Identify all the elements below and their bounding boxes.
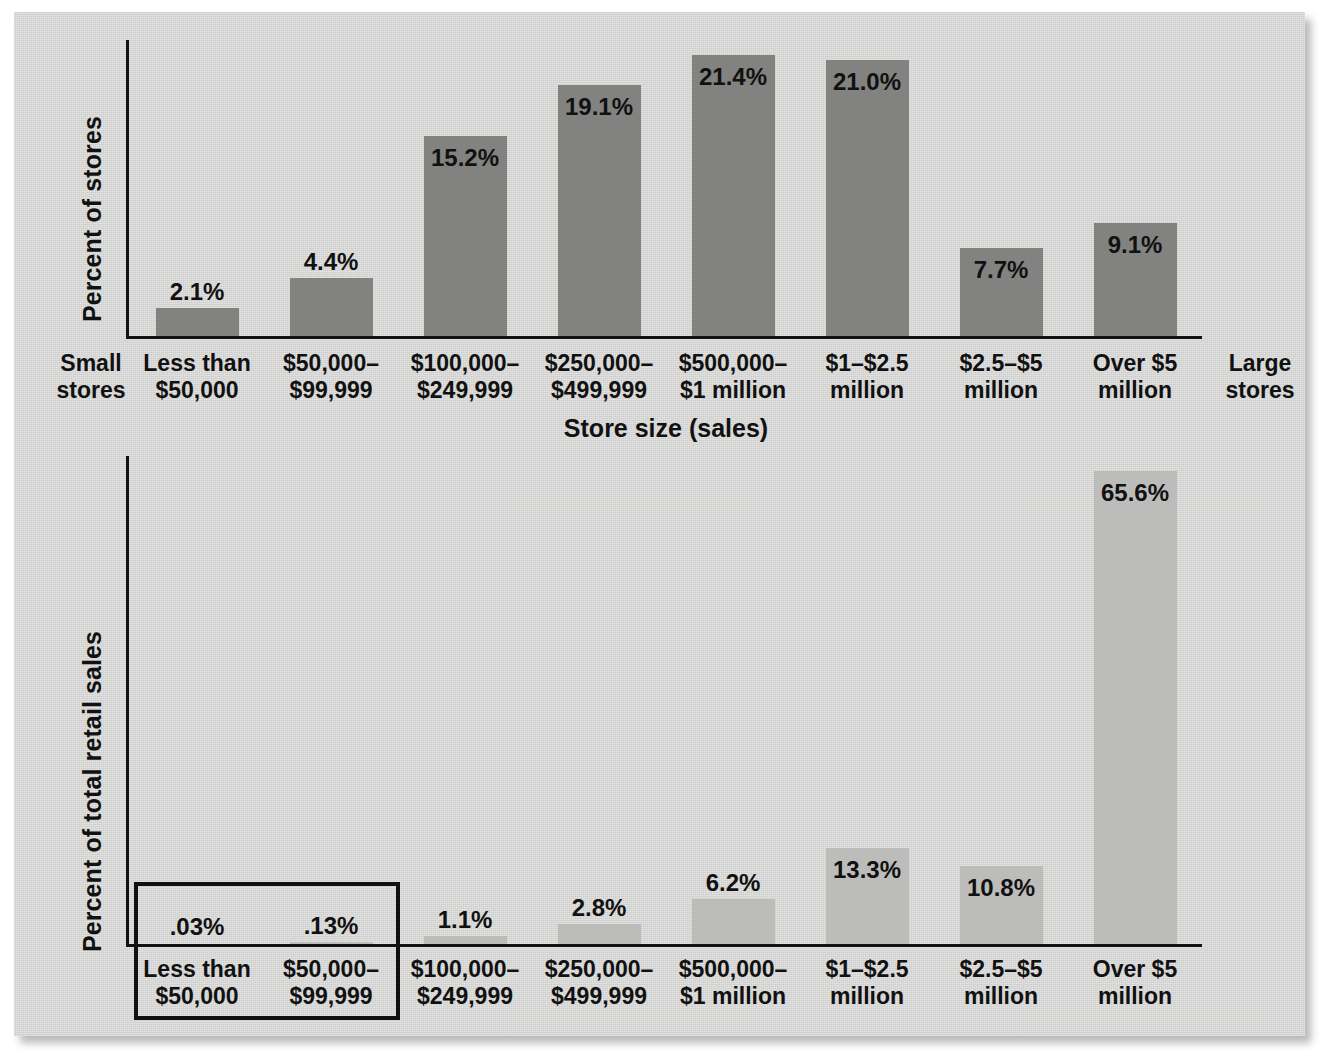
bar-250000-499999: 2.8% <box>558 924 641 944</box>
bar-value-label: 1.1% <box>438 906 493 934</box>
bar-slot: 15.2% <box>398 40 532 336</box>
category-label-line2: million <box>934 377 1068 404</box>
category-label: $1–$2.5 million <box>800 350 934 403</box>
chart-percent-of-stores: Percent of stores 2.1% 4.4% 15.2% <box>14 12 1305 432</box>
bar-value-label: 4.4% <box>304 248 359 276</box>
bar-value-label: 13.3% <box>833 856 901 884</box>
category-label-line2: million <box>934 983 1068 1010</box>
bar-slot: 21.0% <box>800 40 934 336</box>
bar-slot: 2.1% <box>130 40 264 336</box>
bar-value-label: 9.1% <box>1108 231 1163 259</box>
category-label: Less than $50,000 <box>130 350 264 403</box>
bar-1-2point5-million: 21.0% <box>826 60 909 336</box>
category-label: $1–$2.5 million <box>800 956 934 1009</box>
category-label-line2: $50,000 <box>130 983 264 1010</box>
category-label: $100,000– $249,999 <box>398 350 532 403</box>
category-label-line2: $499,999 <box>532 983 666 1010</box>
category-label: $500,000– $1 million <box>666 350 800 403</box>
bar-100000-249999: 15.2% <box>424 136 507 336</box>
category-label-line2: $50,000 <box>130 377 264 404</box>
top-chart-x-axis-title: Store size (sales) <box>130 414 1202 443</box>
category-label-line1: Over $5 <box>1068 956 1202 983</box>
category-label: $100,000– $249,999 <box>398 956 532 1009</box>
category-label-line1: $250,000– <box>532 956 666 983</box>
category-label-line2: $99,999 <box>264 377 398 404</box>
bottom-chart-category-labels: Less than $50,000 $50,000– $99,999 $100,… <box>130 956 1202 1009</box>
bar-500000-1million: 6.2% <box>692 899 775 944</box>
category-label-line1: $1–$2.5 <box>800 350 934 377</box>
category-label-line1: $2.5–$5 <box>934 956 1068 983</box>
category-label-line2: million <box>800 377 934 404</box>
bar-250000-499999: 19.1% <box>558 85 641 336</box>
top-chart-y-axis-line <box>126 40 129 336</box>
category-label: $50,000– $99,999 <box>264 956 398 1009</box>
bar-less-than-50000: 2.1% <box>156 308 239 336</box>
bar-slot: .03% <box>130 456 264 944</box>
bar-50000-99999: .13% <box>290 942 373 944</box>
category-label-line2: $1 million <box>666 377 800 404</box>
bar-slot: 9.1% <box>1068 40 1202 336</box>
category-label-line1: $500,000– <box>666 350 800 377</box>
bar-2point5-5-million: 7.7% <box>960 248 1043 336</box>
bar-over-5-million: 65.6% <box>1094 471 1177 944</box>
bar-50000-99999: 4.4% <box>290 278 373 336</box>
bottom-chart-y-axis-label: Percent of total retail sales <box>78 631 107 952</box>
bar-slot: 2.8% <box>532 456 666 944</box>
bar-slot: 19.1% <box>532 40 666 336</box>
bar-value-label: 15.2% <box>431 144 499 172</box>
bar-slot: 6.2% <box>666 456 800 944</box>
category-label-line1: $50,000– <box>264 956 398 983</box>
bar-less-than-50000: .03% <box>156 943 239 944</box>
category-label: $2.5–$5 million <box>934 956 1068 1009</box>
category-label-line2: million <box>1068 983 1202 1010</box>
bar-slot: 4.4% <box>264 40 398 336</box>
category-label-line1: $50,000– <box>264 350 398 377</box>
chart-percent-of-total-retail-sales: Percent of total retail sales .03% .13% … <box>14 444 1305 1036</box>
category-label-line2: $249,999 <box>398 983 532 1010</box>
bar-slot: 7.7% <box>934 40 1068 336</box>
top-chart-y-axis-label: Percent of stores <box>78 116 107 322</box>
category-label-line2: million <box>1068 377 1202 404</box>
bar-value-label: 2.8% <box>572 894 627 922</box>
bar-slot: 13.3% <box>800 456 934 944</box>
bar-value-label: 21.4% <box>699 63 767 91</box>
category-label-line1: $500,000– <box>666 956 800 983</box>
bar-value-label: 6.2% <box>706 869 761 897</box>
category-label: Over $5 million <box>1068 956 1202 1009</box>
bar-value-label: 65.6% <box>1101 479 1169 507</box>
category-label: $2.5–$5 million <box>934 350 1068 403</box>
bar-slot: 10.8% <box>934 456 1068 944</box>
category-label: Over $5 million <box>1068 350 1202 403</box>
top-chart-plot-area: 2.1% 4.4% 15.2% 19.1% 21.4% <box>130 40 1202 336</box>
category-label-line2: $99,999 <box>264 983 398 1010</box>
top-chart-category-labels: Less than $50,000 $50,000– $99,999 $100,… <box>130 350 1202 403</box>
category-label: $500,000– $1 million <box>666 956 800 1009</box>
bottom-chart-plot-area: .03% .13% 1.1% 2.8% 6.2% <box>130 456 1202 944</box>
bar-value-label: 19.1% <box>565 93 633 121</box>
large-stores-note: Large stores <box>1210 350 1310 403</box>
category-label-line2: $1 million <box>666 983 800 1010</box>
figure-container: Percent of stores 2.1% 4.4% 15.2% <box>14 12 1305 1036</box>
bar-500000-1million: 21.4% <box>692 55 775 336</box>
bar-slot: 1.1% <box>398 456 532 944</box>
category-label-line1: Over $5 <box>1068 350 1202 377</box>
category-label-line1: $100,000– <box>398 956 532 983</box>
bar-value-label: 7.7% <box>974 256 1029 284</box>
bar-value-label: 10.8% <box>967 874 1035 902</box>
category-label-line1: $1–$2.5 <box>800 956 934 983</box>
bar-value-label: 2.1% <box>170 278 225 306</box>
category-label-line1: $100,000– <box>398 350 532 377</box>
category-label-line1: $2.5–$5 <box>934 350 1068 377</box>
bar-slot: .13% <box>264 456 398 944</box>
large-stores-note-line2: stores <box>1210 377 1310 404</box>
category-label-line2: $249,999 <box>398 377 532 404</box>
category-label-line1: Less than <box>130 956 264 983</box>
bar-slot: 21.4% <box>666 40 800 336</box>
category-label: $250,000– $499,999 <box>532 350 666 403</box>
category-label-line1: $250,000– <box>532 350 666 377</box>
bar-value-label: 21.0% <box>833 68 901 96</box>
category-label: $50,000– $99,999 <box>264 350 398 403</box>
bar-value-label: .13% <box>304 912 359 940</box>
category-label: Less than $50,000 <box>130 956 264 1009</box>
bar-over-5-million: 9.1% <box>1094 223 1177 336</box>
